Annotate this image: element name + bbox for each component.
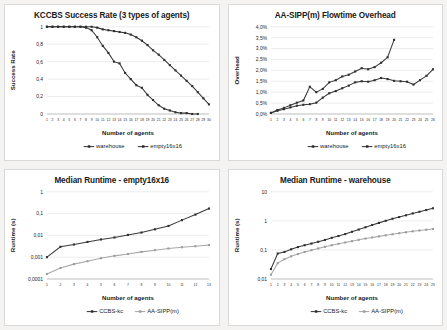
x-tick-label: 13 (350, 283, 354, 287)
series-marker (425, 209, 427, 211)
series-marker (191, 85, 193, 87)
x-tick-label: 6 (74, 118, 76, 122)
series-marker (317, 247, 319, 249)
series-marker (341, 87, 343, 89)
series-marker (328, 92, 330, 94)
x-tick-label: 18 (383, 283, 387, 287)
x-tick-label: 1 (270, 283, 272, 287)
y-axis-title: Success Rate (9, 50, 16, 90)
series-marker (371, 224, 373, 226)
series-marker (102, 45, 104, 47)
chart-svg-runtime-empty: 0,00010,0010,010,1112345678910111213Numb… (5, 186, 219, 325)
legend-marker (91, 310, 93, 312)
x-tick-label: 6 (303, 283, 305, 287)
y-tick-label: 0,5% (255, 101, 267, 106)
series-marker (86, 241, 88, 243)
series-marker (68, 26, 70, 28)
series-marker (354, 81, 356, 83)
series-marker (391, 218, 393, 220)
series-marker (197, 113, 199, 115)
series-marker (74, 26, 76, 28)
y-tick-label: 0,4 (36, 77, 43, 82)
series-marker (330, 244, 332, 246)
chart-title: Median Runtime - warehouse (229, 176, 443, 185)
legend-label: warehouse (95, 143, 124, 149)
series-marker (310, 243, 312, 245)
chart-svg-flowtime-overhead: 0,0%0,5%1,0%1,5%2,0%2,5%3,0%3,5%4,0%1234… (229, 21, 443, 160)
legend-label: warehouse (319, 143, 348, 149)
legend-label: empty16x16 (150, 143, 182, 149)
series-marker (135, 36, 137, 38)
y-tick-label: 0,0001 (28, 277, 43, 282)
series-marker (96, 27, 98, 29)
x-tick-label: 25 (179, 118, 183, 122)
x-tick-label: 28 (196, 118, 200, 122)
series-marker (186, 80, 188, 82)
series-marker (180, 112, 182, 114)
series-marker (321, 97, 323, 99)
x-tick-label: 3 (283, 283, 285, 287)
y-tick-label: 3,5% (255, 36, 267, 41)
y-tick-label: 0,2 (36, 94, 43, 99)
series-marker (158, 104, 160, 106)
x-tick-label: 16 (366, 118, 370, 122)
series-marker (283, 251, 285, 253)
series-marker (290, 248, 292, 250)
y-axis-title: Runtime (s) (232, 219, 239, 253)
series-marker (347, 85, 349, 87)
series-marker (102, 28, 104, 30)
x-tick-label: 8 (315, 118, 317, 122)
series-marker (315, 91, 317, 93)
series-marker (194, 245, 196, 247)
series-marker (303, 251, 305, 253)
series-marker (328, 81, 330, 83)
chart-title: KCCBS Success Rate (3 types of agents) (5, 11, 219, 20)
series-marker (386, 78, 388, 80)
x-tick-label: 2 (60, 283, 62, 287)
x-tick-label: 24 (418, 118, 422, 122)
series-marker (46, 256, 48, 258)
x-tick-label: 2 (52, 118, 54, 122)
series-marker (194, 214, 196, 216)
series-marker (208, 244, 210, 246)
series-marker (119, 31, 121, 33)
x-tick-label: 14 (356, 283, 360, 287)
series-marker (146, 94, 148, 96)
x-tick-label: 5 (68, 118, 70, 122)
series-marker (73, 263, 75, 265)
x-tick-label: 16 (129, 118, 133, 122)
x-tick-label: 3 (73, 283, 75, 287)
y-tick-label: 1,0% (255, 90, 267, 95)
series-marker (152, 99, 154, 101)
series-marker (100, 257, 102, 259)
series-marker (321, 88, 323, 90)
series-marker (59, 246, 61, 248)
x-tick-label: 25 (431, 283, 435, 287)
series-marker (180, 75, 182, 77)
series-marker (130, 78, 132, 80)
x-tick-label: 4 (87, 283, 89, 287)
x-tick-label: 12 (343, 283, 347, 287)
series-marker (357, 229, 359, 231)
series-marker (276, 252, 278, 254)
x-tick-label: 23 (168, 118, 172, 122)
x-tick-label: 22 (162, 118, 166, 122)
legend-marker (142, 145, 144, 147)
plot-area: 0,0%0,5%1,0%1,5%2,0%2,5%3,0%3,5%4,0%1234… (229, 21, 443, 160)
series-marker (79, 26, 81, 28)
series-marker (405, 81, 407, 83)
y-tick-label: 0,1 (260, 248, 267, 253)
series-marker (315, 102, 317, 104)
x-tick-label: 10 (327, 118, 331, 122)
series-marker (398, 216, 400, 218)
series-marker (127, 253, 129, 255)
series-marker (344, 233, 346, 235)
series-marker (269, 112, 271, 114)
x-tick-label: 10 (329, 283, 333, 287)
x-tick-label: 1 (270, 118, 272, 122)
series-marker (323, 239, 325, 241)
x-tick-label: 29 (202, 118, 206, 122)
series-marker (140, 231, 142, 233)
y-tick-label: 0,8 (36, 42, 43, 47)
series-marker (269, 268, 271, 270)
